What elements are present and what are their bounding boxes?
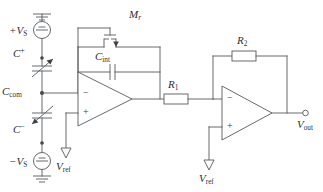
opamp-charge-inverting-sign: −	[83, 88, 89, 98]
variable-capacitor-positive-icon	[32, 58, 53, 93]
label-capacitor-integration: Cint	[95, 51, 110, 62]
schematic-canvas	[0, 0, 323, 192]
opamp-gain-noninverting-sign: +	[227, 121, 233, 131]
voltage-source-negative-icon	[34, 153, 51, 170]
label-resistor-r2: R2	[237, 35, 247, 46]
label-vref-1: Vref	[56, 161, 71, 172]
circuit-schematic: +VS C+ Ccom C− −VS Mr Cint R1 R2 Vref Vr…	[0, 0, 323, 192]
resistor-r1-icon	[164, 94, 188, 104]
variable-capacitor-negative-icon	[32, 106, 53, 143]
voltage-source-positive-icon	[34, 22, 51, 39]
opamp-gain-inverting-sign: −	[227, 93, 233, 103]
label-resistor-r1: R1	[168, 79, 178, 90]
resistor-r2-icon	[232, 51, 256, 61]
label-mosfet-reset: Mr	[129, 9, 141, 20]
reference-arrow-1-icon	[61, 148, 71, 158]
label-capacitor-positive: C+	[13, 48, 25, 59]
capacitor-integration-icon	[78, 47, 160, 80]
terminal-vout-icon	[303, 110, 309, 116]
ground-bottom-icon	[33, 176, 51, 182]
label-vref-2: Vref	[199, 173, 214, 184]
label-vs-positive: +VS	[9, 25, 27, 36]
opamp-charge-icon	[78, 72, 132, 126]
label-vout: Vout	[297, 119, 313, 130]
label-capacitor-common: Ccom	[2, 86, 22, 97]
ground-top-icon	[33, 14, 51, 22]
reference-arrow-2-icon	[204, 160, 214, 170]
label-vs-negative: −VS	[9, 156, 27, 167]
label-capacitor-negative: C−	[13, 124, 25, 135]
mosfet-reset-icon	[78, 35, 160, 47]
opamp-charge-noninverting-sign: +	[83, 107, 89, 117]
